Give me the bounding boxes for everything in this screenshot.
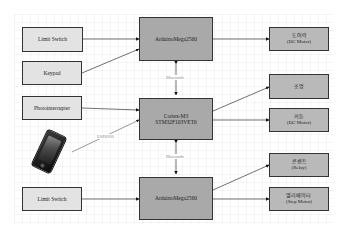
cortex-m3-label: Cortex-M3 STM32F103VET6 xyxy=(155,113,197,126)
outlet-label: 콘센트 (Relay) xyxy=(292,159,307,171)
lighting-box: 조명 xyxy=(269,74,329,99)
arduino-top-label: ArduinoMega2560 xyxy=(155,36,197,42)
limit-switch-top-label: Limit Switch xyxy=(38,36,67,42)
door-lock-label: 도어락 (DC Motor) xyxy=(287,33,311,45)
bluetooth-top-label: Bluetooth xyxy=(165,75,185,80)
esp8266-label: ESP8266 xyxy=(96,134,115,139)
keypad-box: Keypad xyxy=(22,61,82,85)
door-lock-box: 도어락 (DC Motor) xyxy=(269,27,329,51)
elevator-box: 엘리베이터 (Step Motor) xyxy=(269,187,329,211)
curtain-label: 커튼 (DC Motor) xyxy=(287,114,311,126)
arduino-top-box: ArduinoMega2560 xyxy=(139,17,213,61)
cortex-m3-box: Cortex-M3 STM32F103VET6 xyxy=(139,98,213,140)
lighting-label: 조명 xyxy=(294,84,304,90)
curtain-box: 커튼 (DC Motor) xyxy=(269,108,329,132)
outlet-box: 콘센트 (Relay) xyxy=(269,153,329,177)
keypad-label: Keypad xyxy=(43,70,60,76)
bluetooth-bottom-label: Bluetooth xyxy=(165,154,185,159)
limit-switch-bottom-label: Limit Switch xyxy=(38,196,67,202)
elevator-label: 엘리베이터 (Step Motor) xyxy=(286,193,312,205)
photointerrupter-label: Photointerrupter xyxy=(34,105,70,111)
arduino-bottom-label: ArduinoMega2560 xyxy=(155,195,197,201)
limit-switch-top-box: Limit Switch xyxy=(22,27,83,52)
phone-home-button xyxy=(40,163,45,168)
arduino-bottom-box: ArduinoMega2560 xyxy=(139,177,213,220)
photointerrupter-box: Photointerrupter xyxy=(22,96,82,120)
limit-switch-bottom-box: Limit Switch xyxy=(22,187,82,211)
